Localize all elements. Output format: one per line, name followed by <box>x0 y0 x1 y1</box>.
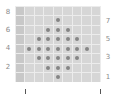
grid-cell <box>82 54 91 63</box>
grid-cell <box>82 73 91 82</box>
grid-cell <box>44 7 53 16</box>
grid-cell <box>16 26 25 35</box>
grid-cell <box>54 7 63 16</box>
data-dot <box>66 37 70 41</box>
grid-cell <box>25 7 34 16</box>
grid-cell <box>73 26 82 35</box>
data-dot <box>56 47 60 51</box>
left-label-8: 8 <box>3 8 13 16</box>
data-dot <box>66 66 70 70</box>
data-dot <box>37 47 41 51</box>
grid-cell <box>25 16 34 25</box>
grid-cell <box>35 73 44 82</box>
data-dot <box>66 56 70 60</box>
grid-cell <box>63 7 72 16</box>
grid-cell <box>82 64 91 73</box>
right-label-5: 5 <box>103 35 113 43</box>
left-label-4: 4 <box>3 44 13 52</box>
grid-cell <box>35 7 44 16</box>
grid-cell <box>82 16 91 25</box>
grid-cell <box>82 26 91 35</box>
grid-cell <box>73 64 82 73</box>
grid-cell <box>82 7 91 16</box>
grid-cell <box>35 64 44 73</box>
data-dot <box>75 47 79 51</box>
dot-grid <box>15 6 101 82</box>
right-label-7: 7 <box>103 17 113 25</box>
grid-cell <box>25 35 34 44</box>
grid-cell <box>35 16 44 25</box>
data-dot <box>56 66 60 70</box>
left-label-2: 2 <box>3 63 13 71</box>
right-label-1: 1 <box>103 73 113 81</box>
grid-cell <box>73 16 82 25</box>
grid-cell <box>92 64 101 73</box>
bottom-tick-right <box>100 89 101 94</box>
grid-cell <box>73 73 82 82</box>
grid-cell <box>92 73 101 82</box>
data-dot <box>56 28 60 32</box>
data-dot <box>85 47 89 51</box>
grid-cell <box>44 73 53 82</box>
grid-cell <box>16 64 25 73</box>
grid-cell <box>92 35 101 44</box>
grid-cell <box>92 7 101 16</box>
grid-cell <box>16 7 25 16</box>
grid-cell <box>92 16 101 25</box>
grid-cell <box>16 16 25 25</box>
grid-cell <box>25 73 34 82</box>
grid-cell <box>92 45 101 54</box>
data-dot <box>66 47 70 51</box>
grid-cell <box>63 73 72 82</box>
bottom-tick-left <box>25 89 26 94</box>
grid-cell <box>25 54 34 63</box>
grid-cell <box>16 45 25 54</box>
data-dot <box>66 28 70 32</box>
grid-cell <box>82 35 91 44</box>
grid-cell <box>16 54 25 63</box>
grid-cell <box>92 26 101 35</box>
grid-cell <box>25 26 34 35</box>
grid-cell <box>73 7 82 16</box>
grid-cell <box>44 16 53 25</box>
right-label-3: 3 <box>103 53 113 61</box>
grid-cell <box>16 35 25 44</box>
grid-cell <box>35 26 44 35</box>
grid-cell <box>63 16 72 25</box>
left-label-6: 6 <box>3 26 13 34</box>
grid-cell <box>92 54 101 63</box>
grid-cell <box>16 73 25 82</box>
grid-cell <box>25 64 34 73</box>
